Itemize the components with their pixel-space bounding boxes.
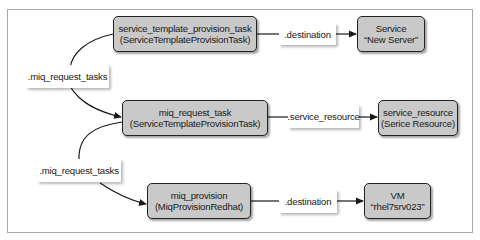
node-service: Service “New Server” — [357, 16, 425, 52]
node-name: miq_request_task — [159, 107, 232, 119]
edge-label-bottom-destination: .destination — [279, 190, 337, 213]
node-name: Service — [376, 23, 407, 35]
edge-label-lower-miq-request-tasks: .miq_request_tasks — [37, 159, 121, 182]
node-class: (MiqProvisionRedhat) — [155, 201, 243, 213]
edge-label-upper-miq-request-tasks: .miq_request_tasks — [26, 65, 109, 88]
edge-label-service-resource: .service_resource — [288, 105, 359, 128]
node-class: (ServiceTemplateProvisionTask) — [120, 34, 251, 46]
node-name: service_resource — [383, 107, 453, 119]
node-class: (Serice Resource) — [381, 118, 455, 130]
node-miq-provision: miq_provision (MiqProvisionRedhat) — [147, 183, 251, 219]
node-name: VM — [391, 190, 405, 202]
node-name: miq_provision — [171, 190, 228, 202]
node-service-template-provision-task: service_template_provision_task (Service… — [113, 16, 257, 52]
node-class: “New Server” — [364, 34, 418, 46]
node-class: “rhel7srv023” — [371, 201, 425, 213]
node-name: service_template_provision_task — [119, 23, 252, 35]
node-service-resource: service_resource (Serice Resource) — [378, 100, 458, 136]
node-class: (ServiceTemplateProvisionTask) — [130, 118, 261, 130]
edge-label-top-destination: .destination — [279, 23, 336, 45]
node-vm: VM “rhel7srv023” — [364, 183, 431, 219]
node-miq-request-task: miq_request_task (ServiceTemplateProvisi… — [122, 100, 268, 136]
